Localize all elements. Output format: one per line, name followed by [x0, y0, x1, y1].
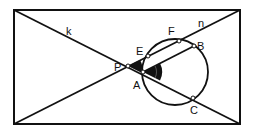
label-e: E — [136, 45, 143, 57]
label-p: P — [114, 61, 121, 73]
label-c: C — [190, 104, 198, 116]
angle-a-marker — [143, 63, 162, 80]
point-f — [177, 39, 181, 43]
point-a — [141, 70, 145, 74]
label-a: A — [133, 79, 141, 91]
label-f: F — [168, 25, 175, 37]
point-e — [146, 54, 150, 58]
point-p — [126, 64, 130, 68]
label-n: n — [198, 17, 204, 29]
label-b: B — [197, 40, 204, 52]
geometry-diagram: k n P A E F B C — [0, 0, 254, 131]
point-c — [191, 96, 195, 100]
label-k: k — [66, 25, 72, 37]
point-b — [192, 44, 196, 48]
